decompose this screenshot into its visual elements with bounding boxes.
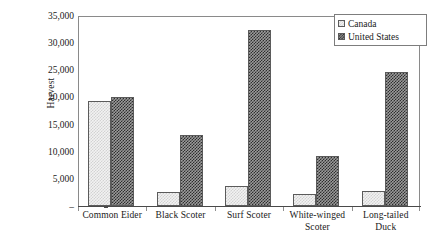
y-axis-tick-label: 20,000 (30, 92, 74, 102)
y-axis-tick-label: 15,000 (30, 120, 74, 130)
x-axis-category-labels: Common EiderBlack ScoterSurf ScoterWhite… (78, 210, 420, 243)
legend-item-canada: Canada (338, 17, 423, 30)
legend-swatch-canada-icon (338, 20, 345, 27)
y-axis-tick-label: 5,000 (30, 174, 74, 184)
bar-united-states (385, 72, 408, 206)
bar-canada (225, 186, 248, 206)
bar-united-states (316, 156, 339, 206)
bar-united-states (180, 135, 203, 206)
bar-united-states (111, 97, 134, 206)
y-axis-tick-label: – (30, 202, 74, 212)
bar-chart-figure: Harvest –5,00010,00015,00020,00025,00030… (0, 0, 441, 243)
legend-swatch-united-states-icon (338, 33, 345, 40)
y-axis-tick-label: 35,000 (30, 11, 74, 21)
legend-item-united-states: United States (338, 30, 423, 43)
x-axis-category-label-line: Duck (346, 222, 426, 234)
x-axis-category-label-line: Long-tailed (346, 210, 426, 222)
bar-canada (362, 191, 385, 206)
y-axis-tick-label: 25,000 (30, 65, 74, 75)
y-axis-tick-label: 10,000 (30, 147, 74, 157)
y-axis-tick-labels: –5,00010,00015,00020,00025,00030,00035,0… (30, 0, 74, 243)
x-axis-category-label: Long-tailedDuck (346, 210, 426, 233)
bar-canada (293, 194, 316, 206)
bar-canada (157, 192, 180, 206)
bar-canada (88, 101, 111, 206)
legend-label-united-states: United States (348, 32, 399, 42)
chart-legend: Canada United States (334, 14, 427, 46)
bar-united-states (248, 30, 271, 206)
y-axis-tick-label: 30,000 (30, 38, 74, 48)
legend-label-canada: Canada (348, 19, 377, 29)
